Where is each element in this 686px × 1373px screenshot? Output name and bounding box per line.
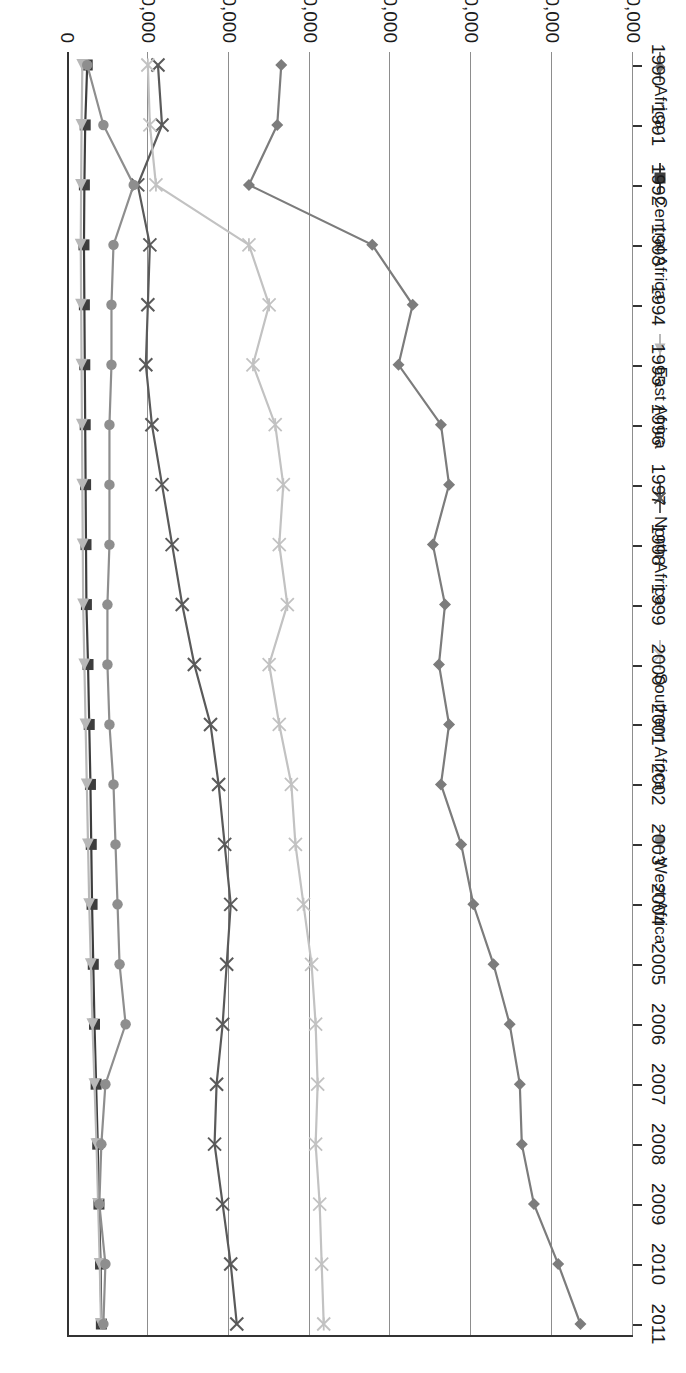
data-point — [443, 479, 455, 491]
data-point — [407, 299, 419, 311]
data-point — [269, 418, 282, 431]
data-point — [106, 300, 116, 310]
data-point — [514, 1078, 526, 1090]
category-axis-line — [67, 1335, 633, 1337]
value-tick-label: 0 — [56, 32, 78, 43]
data-point — [102, 599, 112, 609]
data-point — [114, 959, 124, 969]
category-tick-label: 2010 — [647, 1243, 669, 1285]
category-tick — [633, 1084, 642, 1086]
category-tick — [633, 545, 642, 547]
category-tick-label: 2002 — [647, 763, 669, 805]
series-line — [249, 65, 581, 1324]
category-tick-label: 2009 — [647, 1183, 669, 1225]
value-axis-line — [67, 52, 69, 1337]
category-tick — [633, 305, 642, 307]
data-point — [112, 899, 122, 909]
series-layer — [67, 52, 633, 1337]
value-tick-label: 60,000 — [299, 0, 321, 43]
category-tick — [633, 1144, 642, 1146]
category-tick-label: 2011 — [647, 1304, 669, 1345]
category-tick — [633, 485, 642, 487]
data-point — [104, 479, 114, 489]
data-point — [275, 59, 287, 71]
data-point — [242, 238, 255, 251]
series-line — [138, 65, 237, 1324]
category-tick — [633, 1204, 642, 1206]
data-point — [516, 1138, 528, 1150]
data-point — [285, 778, 298, 791]
value-tick-label: 40,000 — [218, 0, 240, 43]
data-point — [82, 60, 92, 70]
data-point — [488, 958, 500, 970]
data-point — [100, 1259, 110, 1269]
category-tick — [633, 185, 642, 187]
value-tick-label: 140,000 — [622, 0, 644, 43]
line-chart-figure: AfricaCentral AfricaEast AfricaNorth Afr… — [1, 0, 686, 1373]
data-point — [128, 180, 138, 190]
category-tick — [633, 724, 642, 726]
data-point — [96, 1139, 106, 1149]
category-tick-label: 1991 — [647, 104, 669, 146]
data-point — [443, 718, 455, 730]
category-tick-label: 2003 — [647, 823, 669, 865]
data-point — [455, 838, 467, 850]
data-point — [427, 539, 439, 551]
category-tick — [633, 1264, 642, 1266]
data-point — [271, 119, 283, 131]
rotated-page-container: AfricaCentral AfricaEast AfricaNorth Afr… — [1, 0, 686, 1373]
data-point — [305, 958, 318, 971]
data-point — [273, 718, 286, 731]
category-tick-label: 2004 — [647, 883, 669, 925]
data-point — [98, 120, 108, 130]
data-point — [528, 1198, 540, 1210]
value-tick-label: 80,000 — [379, 0, 401, 43]
data-point — [311, 1078, 324, 1091]
category-tick-label: 2000 — [647, 643, 669, 685]
data-point — [104, 539, 114, 549]
data-point — [433, 659, 445, 671]
data-point — [100, 1079, 110, 1089]
series-africa — [243, 59, 587, 1330]
data-point — [98, 1319, 108, 1329]
data-point — [289, 838, 302, 851]
category-tick — [633, 365, 642, 367]
category-tick-label: 1993 — [647, 224, 669, 266]
series-line — [148, 65, 324, 1324]
value-tick-label: 20,000 — [137, 0, 159, 43]
data-point — [313, 1198, 326, 1211]
category-tick — [633, 1324, 642, 1326]
data-point — [439, 599, 451, 611]
category-tick-label: 2006 — [647, 1003, 669, 1045]
data-point — [246, 358, 259, 371]
data-point — [281, 598, 294, 611]
data-point — [317, 1318, 330, 1331]
data-point — [108, 240, 118, 250]
data-point — [309, 1138, 322, 1151]
category-tick-label: 1990 — [647, 44, 669, 86]
series-north-africa — [131, 59, 243, 1331]
data-point — [315, 1258, 328, 1271]
data-point — [243, 179, 255, 191]
data-point — [94, 1199, 104, 1209]
category-tick — [633, 904, 642, 906]
category-tick — [633, 964, 642, 966]
data-point — [263, 298, 276, 311]
category-tick — [633, 665, 642, 667]
data-point — [102, 659, 112, 669]
data-point — [277, 478, 290, 491]
data-point — [141, 59, 154, 72]
data-point — [120, 1019, 130, 1029]
category-tick — [633, 425, 642, 427]
data-point — [143, 118, 156, 131]
data-point — [104, 419, 114, 429]
data-point — [552, 1258, 564, 1270]
data-point — [104, 719, 114, 729]
category-tick — [633, 65, 642, 67]
series-southern-africa — [141, 59, 330, 1331]
category-tick-label: 2001 — [647, 703, 669, 745]
series-line — [87, 65, 133, 1324]
data-point — [366, 239, 378, 251]
data-point — [435, 778, 447, 790]
plot-wrapper: 020,00040,00060,00080,000100,000120,0001… — [67, 52, 633, 1337]
